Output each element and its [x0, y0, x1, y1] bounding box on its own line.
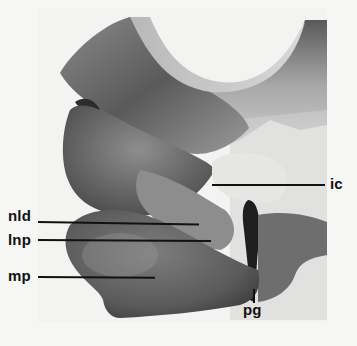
- embryo-illustration: [0, 0, 357, 346]
- label-lnp: lnp: [8, 232, 31, 247]
- figure: ic nld lnp mp pg: [0, 0, 357, 346]
- label-mp: mp: [8, 268, 31, 283]
- leader-line-ic: [212, 184, 325, 186]
- label-pg: pg: [243, 302, 262, 317]
- label-ic: ic: [330, 176, 343, 191]
- label-nld: nld: [8, 208, 31, 223]
